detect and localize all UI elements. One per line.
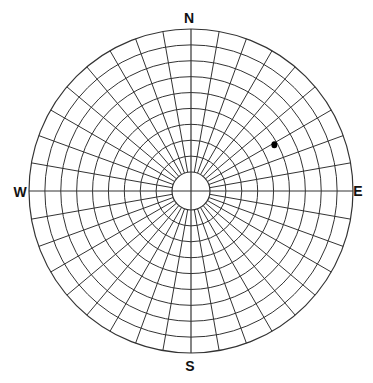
south-label: S bbox=[185, 359, 194, 373]
spoke bbox=[210, 163, 351, 188]
spoke bbox=[197, 39, 246, 173]
spoke bbox=[197, 209, 246, 343]
plotted-point bbox=[271, 141, 277, 148]
spoke bbox=[136, 39, 185, 173]
spoke bbox=[163, 31, 188, 172]
spoke bbox=[194, 210, 219, 351]
spoke bbox=[136, 209, 185, 343]
west-label: W bbox=[13, 185, 26, 199]
spoke bbox=[31, 194, 172, 219]
polar-grid bbox=[0, 0, 373, 383]
axes bbox=[29, 29, 353, 353]
spoke bbox=[39, 197, 173, 246]
east-label: E bbox=[353, 184, 362, 198]
points bbox=[271, 141, 277, 148]
north-label: N bbox=[184, 11, 194, 25]
spoke bbox=[31, 163, 172, 188]
spoke bbox=[163, 210, 188, 351]
spoke bbox=[210, 194, 351, 219]
spoke bbox=[39, 136, 173, 185]
spoke bbox=[209, 197, 343, 246]
spoke bbox=[194, 31, 219, 172]
